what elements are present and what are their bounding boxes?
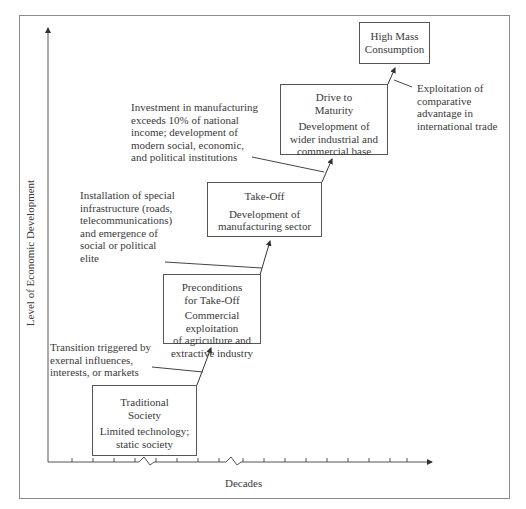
stage-desc-line: commercial base xyxy=(297,145,371,157)
note-line: interests, or markets xyxy=(50,366,139,378)
note-line: Investment in manufacturing xyxy=(131,101,258,113)
transition-note-takeoff-to-maturity: Investment in manufacturing exceeds 10% … xyxy=(131,101,258,164)
stage-desc-line: extractive industry xyxy=(171,347,253,359)
stage-title-line: Take-Off xyxy=(245,190,285,202)
note-line: modern social, economic, xyxy=(131,139,244,151)
note-line: telecommunications) xyxy=(80,214,172,226)
transition-note-maturity-to-highmass: Exploitation of comparative advantage in… xyxy=(417,82,497,132)
note-line: Transition triggered by xyxy=(50,341,151,353)
transition-note-preconditions-to-takeoff: Installation of special infrastructure (… xyxy=(80,189,175,264)
stage-title-line: High Mass xyxy=(371,30,419,42)
stage-desc-line: Limited technology; xyxy=(100,425,190,437)
stage-title: Take-Off xyxy=(208,190,321,203)
stage-desc-line: wider industrial and xyxy=(290,133,378,145)
y-axis-label: Level of Economic Development xyxy=(24,178,38,328)
note-line: Exploitation of xyxy=(417,82,483,94)
note-line: exceeds 10% of national xyxy=(131,114,239,126)
transition-note-traditional-to-preconditions: Transition triggered by exernal influenc… xyxy=(50,341,151,379)
stage-title-line: Maturity xyxy=(315,104,354,116)
stage-title-line: Consumption xyxy=(365,43,424,55)
stage-desc-line: of agriculture and xyxy=(173,334,251,346)
stage-title-line: Preconditions xyxy=(182,281,243,293)
note-line: and emergence of xyxy=(80,227,158,239)
stage-desc-line: Development of xyxy=(229,208,300,220)
x-axis xyxy=(48,457,432,465)
note-line: and political institutions xyxy=(131,151,237,163)
note-line: infrastructure (roads, xyxy=(80,202,172,214)
note-line: exernal influences, xyxy=(50,354,133,366)
stage-title-line: Society xyxy=(128,409,161,421)
note-line: international trade xyxy=(417,120,497,132)
note-line: social or political xyxy=(80,239,156,251)
stage-title: Traditional Society xyxy=(93,396,196,421)
stage-description: Development of manufacturing sector xyxy=(208,208,321,233)
stage-description: Commercial exploitation of agriculture a… xyxy=(164,309,260,359)
stage-title-line: for Take-Off xyxy=(184,294,239,306)
stage-drive-to-maturity: Drive to Maturity Development of wider i… xyxy=(280,84,388,155)
stage-desc-line: exploitation xyxy=(186,322,239,334)
stage-desc-line: Development of xyxy=(298,120,369,132)
stage-title-line: Traditional xyxy=(120,396,169,408)
stage-preconditions: Preconditions for Take-Off Commercial ex… xyxy=(163,274,261,344)
stage-desc-line: manufacturing sector xyxy=(218,220,311,232)
stage-title-line: Drive to xyxy=(316,91,352,103)
stage-desc-line: static society xyxy=(116,438,173,450)
stage-desc-line: Commercial xyxy=(185,309,239,321)
stage-title: High Mass Consumption xyxy=(360,30,429,55)
stage-description: Development of wider industrial and comm… xyxy=(281,120,387,158)
note-line: elite xyxy=(80,252,99,264)
diagram-lines xyxy=(0,0,526,509)
stage-title: Drive to Maturity xyxy=(281,91,387,116)
stage-high-mass-consumption: High Mass Consumption xyxy=(359,22,430,64)
x-axis-label: Decades xyxy=(225,477,262,489)
stage-title: Preconditions for Take-Off xyxy=(164,281,260,306)
stage-traditional-society: Traditional Society Limited technology; … xyxy=(92,385,197,456)
note-line: comparative xyxy=(417,95,471,107)
stage-description: Limited technology; static society xyxy=(93,425,196,450)
note-line: income; development of xyxy=(131,126,238,138)
stage-take-off: Take-Off Development of manufacturing se… xyxy=(207,182,322,237)
note-line: Installation of special xyxy=(80,189,175,201)
note-line: advantage in xyxy=(417,107,473,119)
